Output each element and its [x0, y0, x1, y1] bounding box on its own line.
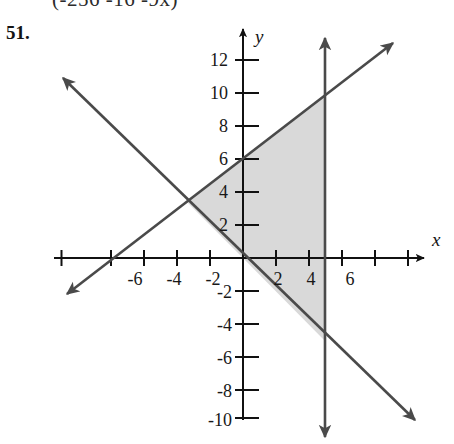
- y-tick-label: -2: [217, 282, 232, 302]
- x-tick-label: 4: [307, 269, 316, 289]
- x-tick-label: -6: [128, 269, 143, 289]
- y-tick-label: -6: [217, 348, 232, 368]
- y-tick-label: -8: [217, 381, 232, 401]
- x-tick-label: -4: [167, 269, 182, 289]
- y-tick-label: -10: [208, 410, 232, 430]
- x-axis-label: x: [431, 229, 441, 250]
- y-tick-label: 8: [219, 116, 228, 136]
- x-tick-label: 2: [274, 269, 283, 289]
- x-tick-label: 6: [346, 269, 355, 289]
- y-tick-label: 10: [210, 83, 228, 103]
- y-tick-label: -4: [217, 315, 232, 335]
- falling-line: [63, 78, 415, 420]
- y-tick-label: 4: [219, 182, 228, 202]
- y-tick-label: 12: [210, 50, 228, 70]
- y-tick-label: 2: [219, 215, 228, 235]
- coordinate-plane: y x -6 -4 -2 2 4 6 12 10 8 6 4 2 -2 -4 -…: [0, 0, 454, 444]
- axes-group: [54, 29, 424, 420]
- graph-figure: (-256 -16 -9x) 51.: [0, 0, 454, 444]
- y-tick-label: 6: [219, 149, 228, 169]
- y-axis-label: y: [253, 26, 264, 47]
- rising-line: [67, 43, 393, 294]
